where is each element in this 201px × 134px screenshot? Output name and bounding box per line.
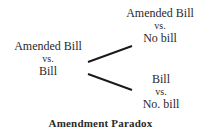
node-bill-vs-no-bill: Bill vs. No. bill: [118, 73, 201, 111]
node-line-3: Bill: [2, 65, 94, 78]
edge-left-to-top-right: [88, 46, 132, 62]
node-amended-bill-vs-no-bill: Amended Bill vs. No bill: [116, 7, 201, 45]
node-line-1: Amended Bill: [2, 40, 94, 53]
node-line-3: No bill: [116, 32, 201, 45]
diagram-title: Amendment Paradox: [0, 117, 201, 129]
node-line-1: Bill: [118, 73, 201, 86]
node-line-3: No. bill: [118, 98, 201, 111]
node-line-1: Amended Bill: [116, 7, 201, 20]
node-amended-bill-vs-bill: Amended Bill vs. Bill: [2, 40, 94, 78]
